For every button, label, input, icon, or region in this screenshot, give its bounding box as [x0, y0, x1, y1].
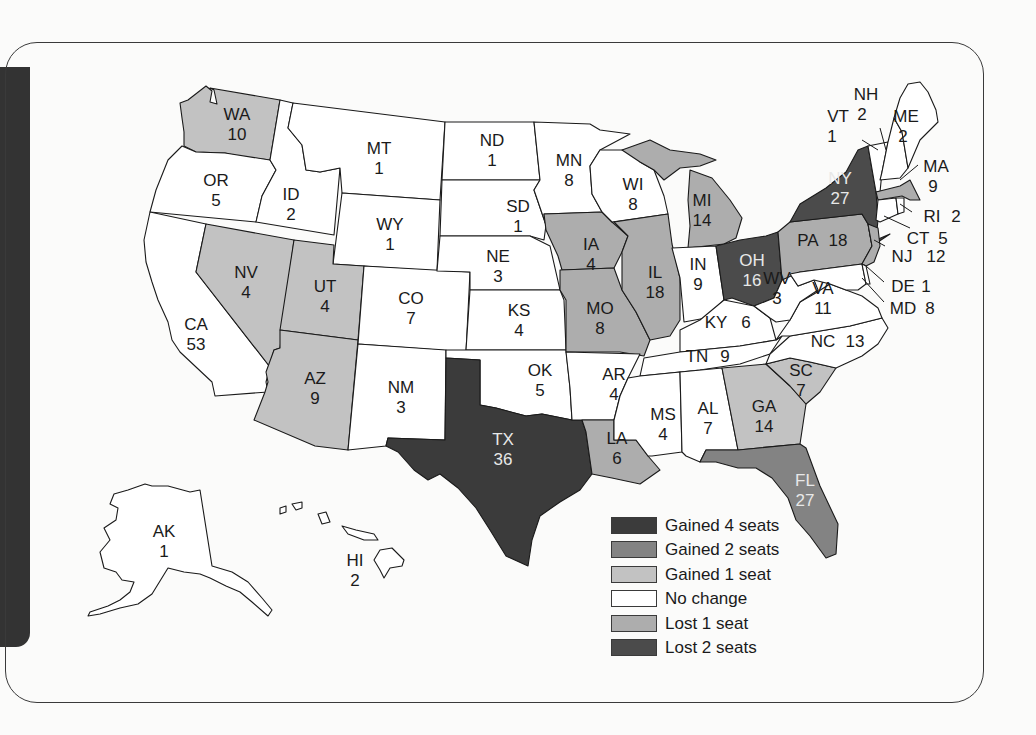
map-legend: Gained 4 seats Gained 2 seats Gained 1 s…: [611, 513, 779, 660]
swatch-gained-1: [611, 566, 657, 583]
state-MI[interactable]: [688, 170, 742, 248]
state-AK[interactable]: [88, 484, 272, 616]
swatch-gained-4: [611, 517, 657, 534]
state-WY[interactable]: [333, 193, 440, 271]
swatch-gained-2: [611, 541, 657, 558]
legend-item-gained-4: Gained 4 seats: [611, 513, 779, 538]
us-map: [0, 0, 1036, 735]
legend-label: Lost 1 seat: [665, 615, 748, 632]
legend-item-no-change: No change: [611, 587, 779, 612]
state-HI[interactable]: [280, 502, 404, 578]
legend-label: Gained 4 seats: [665, 517, 779, 534]
legend-item-gained-1: Gained 1 seat: [611, 562, 779, 587]
swatch-lost-1: [611, 615, 657, 632]
state-CT[interactable]: [876, 198, 898, 222]
state-NM[interactable]: [348, 344, 446, 450]
state-ND[interactable]: [442, 122, 540, 180]
legend-item-lost-1: Lost 1 seat: [611, 611, 779, 636]
swatch-no-change: [611, 590, 657, 607]
state-CO[interactable]: [358, 266, 470, 352]
swatch-lost-2: [611, 639, 657, 656]
legend-label: Lost 2 seats: [665, 639, 757, 656]
state-KS[interactable]: [466, 290, 566, 350]
legend-label: No change: [665, 590, 747, 607]
legend-item-lost-2: Lost 2 seats: [611, 636, 779, 661]
legend-item-gained-2: Gained 2 seats: [611, 538, 779, 563]
state-SD[interactable]: [440, 180, 546, 240]
legend-label: Gained 1 seat: [665, 566, 771, 583]
legend-label: Gained 2 seats: [665, 541, 779, 558]
state-MA[interactable]: [876, 180, 920, 200]
state-WA[interactable]: [180, 86, 280, 160]
state-OH[interactable]: [716, 232, 782, 306]
